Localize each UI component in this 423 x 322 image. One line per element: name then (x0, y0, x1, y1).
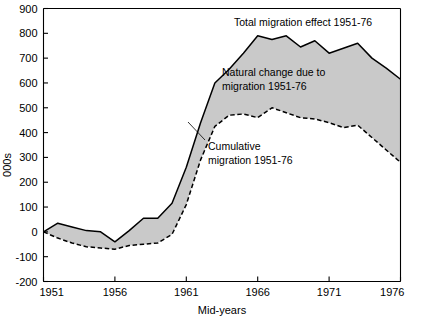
y-tick-label: -200 (15, 276, 37, 288)
x-tick-label: 1971 (317, 286, 341, 298)
x-tick-label: 1976 (380, 286, 404, 298)
annotation-total-migration-effect: Total migration effect 1951-76 (234, 16, 372, 28)
y-tick-label: 800 (19, 27, 37, 39)
x-tick-label: 1966 (245, 286, 269, 298)
annotation-natural-change-line2: migration 1951-76 (222, 80, 307, 92)
y-tick-label: 500 (19, 102, 37, 114)
x-tick-label: 1956 (103, 286, 127, 298)
y-tick-label: 200 (19, 176, 37, 188)
annotation-natural-change-line1: Natural change due to (222, 66, 325, 78)
y-tick-label: 0 (31, 226, 37, 238)
y-tick-label: 600 (19, 77, 37, 89)
annotation-cumulative-line1: Cumulative (208, 140, 261, 152)
x-axis-title: Mid-years (198, 304, 247, 316)
annotation-cumulative-line2: migration 1951-76 (208, 154, 293, 166)
y-tick-label: 300 (19, 151, 37, 163)
y-tick-label: 700 (19, 52, 37, 64)
y-tick-label: 900 (19, 3, 37, 15)
y-tick-label: 100 (19, 201, 37, 213)
x-tick-label: 1951 (40, 286, 64, 298)
migration-area-chart: 9008007006005004003002001000-100-200 195… (0, 0, 423, 322)
x-tick-label: 1961 (174, 286, 198, 298)
y-tick-label: -100 (15, 251, 37, 263)
y-tick-label: 400 (19, 127, 37, 139)
y-axis-title: 000s (1, 153, 13, 177)
chart-figure: 9008007006005004003002001000-100-200 195… (0, 0, 423, 322)
